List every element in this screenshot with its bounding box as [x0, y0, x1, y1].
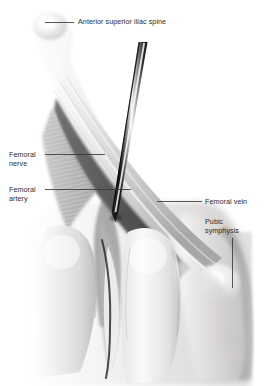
label-femoral-nerve: Femoral nerve [9, 150, 36, 169]
label-femoral-nerve-line1: Femoral [9, 150, 36, 159]
label-femoral-artery: Femoral artery [9, 185, 36, 204]
anatomical-illustration: Anterior superior iliac spine Femoral ne… [0, 0, 266, 386]
label-femoral-artery-line1: Femoral [9, 185, 36, 194]
label-pubic-symphysis-line1: Pubic [205, 217, 223, 226]
label-femoral-nerve-line2: nerve [9, 159, 36, 168]
finger-right [121, 228, 181, 384]
label-anterior-superior-iliac-spine: Anterior superior iliac spine [78, 17, 166, 26]
illustration-canvas [0, 0, 266, 386]
label-pubic-symphysis: Pubic symphysis [205, 217, 239, 236]
label-pubic-symphysis-line2: symphysis [205, 226, 239, 235]
label-femoral-artery-line2: artery [9, 194, 36, 203]
label-femoral-vein: Femoral vein [205, 197, 247, 206]
